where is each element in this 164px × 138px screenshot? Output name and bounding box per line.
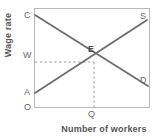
label-demand-curve-d: D [140, 76, 147, 85]
label-equilibrium-quantity-q: Q [88, 110, 95, 119]
label-demand-intercept-c: C [24, 11, 31, 20]
supply-curve [35, 20, 147, 93]
label-equilibrium-wage-w: W [23, 51, 32, 60]
label-supply-curve-s: S [140, 12, 146, 21]
x-axis-title: Number of workers [44, 124, 164, 134]
y-axis-title: Wage rate [3, 3, 13, 67]
label-origin-o: O [24, 103, 31, 112]
chart-container: Wage rate Number of workers C W A O Q E … [0, 0, 164, 138]
label-supply-intercept-a: A [24, 88, 30, 97]
label-equilibrium-point-e: E [88, 45, 94, 54]
